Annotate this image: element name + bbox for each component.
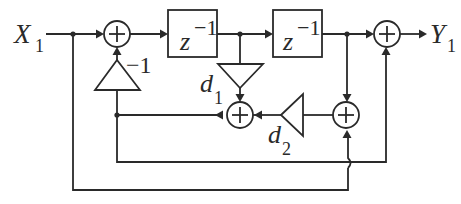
- adder-input: [104, 21, 130, 47]
- arrow-into-delay1: [160, 30, 168, 39]
- delay-2-exponent: −1: [297, 15, 320, 40]
- arrow-into-mid-adder-bottom: [343, 130, 352, 138]
- delay-block-2: z −1: [273, 10, 322, 57]
- arrow-out-of-adder-d1: [215, 111, 223, 120]
- arrow-into-delay2: [265, 30, 273, 39]
- gain-d1-triangle: [218, 64, 263, 88]
- adder-output: [374, 21, 400, 47]
- signal-flow-diagram: z −1 z −1 X 1 Y 1 −1 d 1 d 2: [0, 0, 461, 204]
- gain-d1-label: d: [200, 69, 214, 98]
- gain-d2-triangle: [281, 94, 303, 136]
- delay-block-1: z −1: [168, 10, 217, 57]
- arrow-output: [419, 30, 427, 39]
- arrow-into-adder-d1-top: [236, 94, 245, 102]
- arrow-into-mid-adder-top: [343, 94, 352, 102]
- arrow-into-output-adder-bottom: [382, 47, 391, 55]
- delay-1-z: z: [179, 27, 190, 56]
- gain-d2-label: d: [268, 120, 282, 149]
- output-label: Y: [430, 19, 448, 49]
- arrow-into-adder-d1-right: [254, 111, 262, 120]
- wire-crossover-hump: [348, 137, 351, 168]
- output-label-subscript: 1: [447, 36, 456, 56]
- gain-d2-subscript: 2: [282, 139, 291, 159]
- arrow-into-adder-input: [96, 30, 104, 39]
- arrow-into-adder-input-bottom: [113, 47, 122, 55]
- arrow-into-output-adder: [366, 30, 374, 39]
- delay-2-z: z: [282, 27, 293, 56]
- input-label: X: [13, 19, 32, 49]
- delay-1-exponent: −1: [194, 15, 217, 40]
- adder-mid: [333, 102, 359, 128]
- input-label-subscript: 1: [35, 36, 44, 56]
- gain-d1-subscript: 1: [214, 88, 223, 108]
- gain-neg1-label: −1: [126, 52, 152, 78]
- adder-d1: [227, 102, 253, 128]
